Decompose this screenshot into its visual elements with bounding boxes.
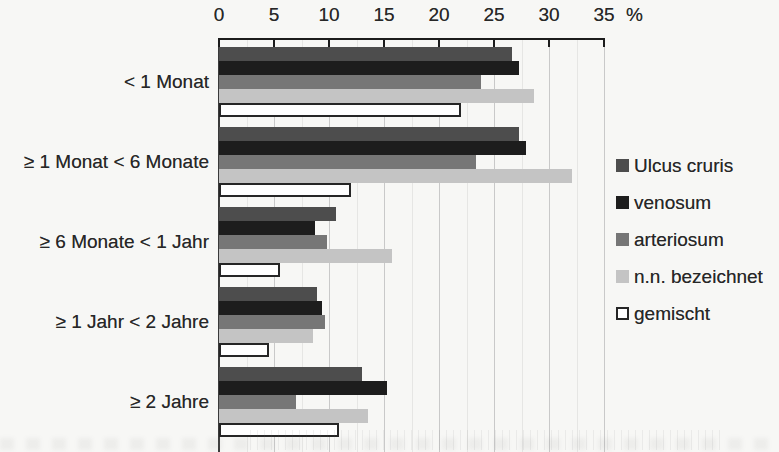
bar-gemischt xyxy=(219,343,269,357)
bar-n-n-bezeichnet xyxy=(219,329,313,343)
legend-swatch-icon xyxy=(616,233,629,246)
x-axis-tick xyxy=(218,40,220,47)
legend-item: n.n. bezeichnet xyxy=(616,258,763,295)
bar-arteriosum xyxy=(219,395,296,409)
x-axis-tick-label: 20 xyxy=(428,4,449,26)
x-axis-tick-label: 0 xyxy=(214,4,225,26)
legend-swatch-icon xyxy=(616,159,629,172)
category-label: < 1 Monat xyxy=(124,71,209,93)
legend-label: venosum xyxy=(634,192,711,214)
bar-ulcus-cruris xyxy=(219,287,317,301)
legend-swatch-icon xyxy=(616,270,629,283)
legend-label: Ulcus cruris xyxy=(634,155,733,177)
grouped-bar-chart: % 05101520253035 < 1 Monat≥ 1 Monat < 6 … xyxy=(0,0,779,452)
x-axis-tick xyxy=(438,40,440,47)
bar-ulcus-cruris xyxy=(219,47,512,61)
bar-arteriosum xyxy=(219,235,327,249)
x-axis-tick-label: 30 xyxy=(538,4,559,26)
bar-ulcus-cruris xyxy=(219,367,362,381)
bar-venosum xyxy=(219,141,526,155)
bar-venosum xyxy=(219,301,322,315)
x-axis-tick-label: 35 xyxy=(593,4,614,26)
bar-ulcus-cruris xyxy=(219,127,519,141)
scan-bleedthrough-artifact xyxy=(0,438,779,450)
bar-venosum xyxy=(219,61,519,75)
legend: Ulcus crurisvenosumarteriosumn.n. bezeic… xyxy=(616,147,763,332)
bar-gemischt xyxy=(219,263,280,277)
x-axis-tick-label: 25 xyxy=(483,4,504,26)
x-axis-tick-label: 10 xyxy=(318,4,339,26)
bar-n-n-bezeichnet xyxy=(219,249,392,263)
bar-arteriosum xyxy=(219,155,476,169)
legend-item: venosum xyxy=(616,184,763,221)
x-axis-tick xyxy=(603,40,605,47)
gridline-minor xyxy=(577,38,578,452)
bar-gemischt xyxy=(219,183,351,197)
bar-venosum xyxy=(219,381,387,395)
legend-item: gemischt xyxy=(616,295,763,332)
x-axis-unit-label: % xyxy=(626,4,643,26)
x-axis-tick-label: 5 xyxy=(269,4,280,26)
x-axis-line xyxy=(218,38,605,40)
legend-item: arteriosum xyxy=(616,221,763,258)
bar-arteriosum xyxy=(219,75,481,89)
scanned-chart-page: % 05101520253035 < 1 Monat≥ 1 Monat < 6 … xyxy=(0,0,779,452)
legend-swatch-icon xyxy=(616,196,629,209)
legend-label: arteriosum xyxy=(634,229,724,251)
bar-n-n-bezeichnet xyxy=(219,409,368,423)
category-label: ≥ 2 Jahre xyxy=(130,391,209,413)
bar-venosum xyxy=(219,221,315,235)
gridline-major xyxy=(604,38,605,452)
bar-gemischt xyxy=(219,103,461,117)
bar-gemischt xyxy=(219,423,339,437)
category-label: ≥ 1 Monat < 6 Monate xyxy=(24,151,209,173)
legend-label: n.n. bezeichnet xyxy=(634,266,763,288)
bar-ulcus-cruris xyxy=(219,207,336,221)
legend-item: Ulcus cruris xyxy=(616,147,763,184)
gridline-major xyxy=(549,38,550,452)
bar-n-n-bezeichnet xyxy=(219,89,534,103)
legend-label: gemischt xyxy=(634,303,710,325)
x-axis-tick xyxy=(548,40,550,47)
x-axis-tick-label: 15 xyxy=(373,4,394,26)
category-label: ≥ 1 Jahr < 2 Jahre xyxy=(55,311,209,333)
category-label: ≥ 6 Monate < 1 Jahr xyxy=(40,231,209,253)
x-axis-tick xyxy=(493,40,495,47)
legend-swatch-icon xyxy=(616,307,629,320)
x-axis-tick xyxy=(328,40,330,47)
bar-n-n-bezeichnet xyxy=(219,169,572,183)
x-axis-tick xyxy=(273,40,275,47)
x-axis-tick xyxy=(383,40,385,47)
bar-arteriosum xyxy=(219,315,325,329)
